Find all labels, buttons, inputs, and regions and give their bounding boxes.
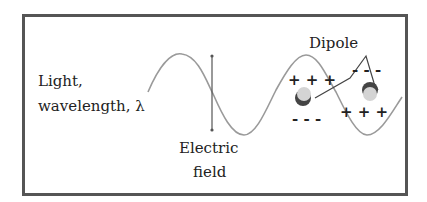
atom-left-icon — [295, 87, 311, 106]
electric-label-line1: Electric — [179, 139, 238, 157]
dipole-label: Dipole — [309, 34, 358, 52]
charge-left-bottom: - - - — [292, 110, 321, 128]
charge-right-bottom: + + + — [340, 103, 388, 121]
light-label-line1: Light, — [38, 72, 83, 90]
light-label-line2: wavelength, λ — [38, 97, 145, 115]
dipole-diagram: Light, wavelength, λ Electric field Dipo… — [0, 0, 427, 202]
charge-right-top: - - - — [352, 61, 381, 79]
charge-left-top: + + + — [288, 71, 336, 89]
electric-label-line2: field — [193, 163, 227, 181]
atom-right-icon — [362, 82, 378, 101]
